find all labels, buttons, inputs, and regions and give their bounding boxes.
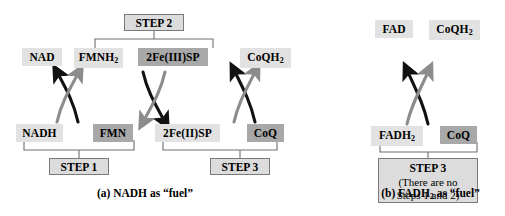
species-2fe2-sp-label: 2Fe(II)SP [163,127,212,139]
species-nadh-label: NADH [22,127,56,139]
reaction-arrows-nadh-fmn [57,72,79,122]
species-fmn: FMN [93,124,133,142]
step-1-box: STEP 1 [49,158,109,175]
bracket-step1 [24,140,134,158]
species-fadh2-label: FADH [379,129,411,141]
species-coqh2-b-label: CoQH [436,23,468,35]
species-coq-a-label: CoQ [254,127,277,139]
species-coqh2-b: CoQH2 [429,20,480,40]
reaction-arrows-fadh2-coq [407,70,429,124]
caption-panel-a: (a) NADH as “fuel” [80,186,210,200]
caption-panel-b-subscript: 2 [430,192,434,201]
species-nad: NAD [22,48,62,66]
species-nadh: NADH [16,124,63,142]
species-fadh2-subscript: 2 [411,134,415,143]
species-coqh2-b-subscript: 2 [469,28,473,37]
step-3-box-a: STEP 3 [210,158,270,175]
caption-panel-a-text: (a) NADH as “fuel” [97,187,193,199]
species-2fe2-sp: 2Fe(II)SP [155,124,220,142]
caption-panel-b-text: (b) FADH [381,187,430,199]
species-coqh2-a-label: CoQH [247,51,279,63]
species-coq-a: CoQ [247,124,284,142]
species-fad: FAD [375,20,413,38]
step-1-label: STEP 1 [61,161,98,173]
caption-panel-b-tail: as “fuel” [434,187,480,199]
reaction-arrows-fesp-coq [234,70,256,122]
species-fad-label: FAD [382,23,405,35]
species-fmnh2-subscript: 2 [114,56,118,65]
step-2-label: STEP 2 [136,17,173,29]
species-fmnh2: FMNH2 [74,48,123,68]
species-nad-label: NAD [29,51,54,63]
caption-panel-b: (b) FADH2 as “fuel” [368,186,493,202]
species-fmn-label: FMN [100,127,126,139]
figure-root: STEP 2 NAD FMNH2 2Fe(III)SP CoQH2 NADH F… [0,0,505,216]
species-coq-b-label: CoQ [447,129,470,141]
species-coqh2-a: CoQH2 [240,48,291,68]
bracket-step3-a [163,140,277,158]
step-3-a-label: STEP 3 [222,161,259,173]
reaction-arrows-fmn-fesp [143,72,165,122]
species-coqh2-a-subscript: 2 [280,56,284,65]
step-2-box: STEP 2 [124,14,184,31]
species-2fe3-sp-label: 2Fe(III)SP [146,51,199,63]
species-coq-b: CoQ [440,126,477,144]
species-fmnh2-label: FMNH [79,51,115,63]
species-2fe3-sp: 2Fe(III)SP [138,48,208,66]
bracket-step2 [95,31,213,48]
step-3-b-title: STEP 3 [410,162,447,174]
species-fadh2: FADH2 [371,126,423,146]
